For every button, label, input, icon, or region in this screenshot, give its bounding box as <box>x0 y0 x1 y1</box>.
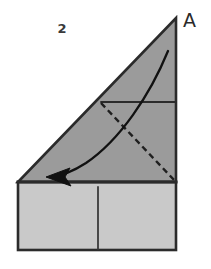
origami-figure: 2 A <box>0 0 211 269</box>
corner-point-label-a: A <box>183 9 196 31</box>
lower-rectangle-panel <box>18 182 176 250</box>
step-number-label: 2 <box>57 21 66 36</box>
origami-diagram-root: 2 A <box>0 0 211 269</box>
